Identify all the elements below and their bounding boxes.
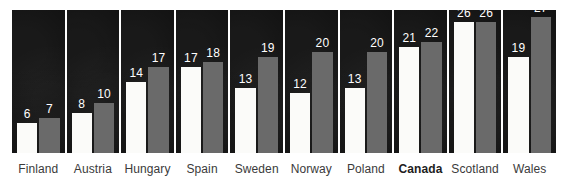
bar-series-a-poland[interactable]: 13 xyxy=(345,88,365,153)
category-label-sweden: Sweden xyxy=(230,158,283,180)
bar-value-label: 8 xyxy=(72,98,92,113)
bar-slot: 22 xyxy=(421,10,441,153)
bar-value-label: 26 xyxy=(476,7,496,22)
bar-series-b-spain[interactable]: 18 xyxy=(203,62,223,153)
bar-slot: 20 xyxy=(312,10,332,153)
bar-slot: 8 xyxy=(72,10,92,153)
country-panel-norway: 1220 xyxy=(285,10,338,153)
bar-slot: 14 xyxy=(126,10,146,153)
bar-value-label: 13 xyxy=(345,73,365,88)
bar-value-label: 14 xyxy=(126,67,146,82)
bar-series-a-hungary[interactable]: 14 xyxy=(126,82,146,153)
bar-slot: 13 xyxy=(235,10,255,153)
bar-group: 1417 xyxy=(121,10,174,153)
bar-slot: 7 xyxy=(39,10,59,153)
bar-value-label: 10 xyxy=(94,88,114,103)
bar-value-label: 21 xyxy=(399,32,419,47)
bar-group: 1220 xyxy=(285,10,338,153)
bar-series-b-finland[interactable]: 7 xyxy=(39,118,59,153)
bar-value-label: 17 xyxy=(181,52,201,67)
bar-slot: 27 xyxy=(531,10,551,153)
category-label-finland: Finland xyxy=(12,158,65,180)
bar-slot: 19 xyxy=(258,10,278,153)
country-panel-hungary: 1417 xyxy=(121,10,174,153)
bar-series-a-sweden[interactable]: 13 xyxy=(235,88,255,153)
bar-value-label: 6 xyxy=(17,108,37,123)
bar-value-label: 18 xyxy=(203,47,223,62)
category-label-canada: Canada xyxy=(394,158,447,180)
category-label-row: FinlandAustriaHungarySpainSwedenNorwayPo… xyxy=(12,158,556,180)
bar-slot: 18 xyxy=(203,10,223,153)
category-label-spain: Spain xyxy=(176,158,229,180)
category-label-hungary: Hungary xyxy=(121,158,174,180)
bar-series-b-poland[interactable]: 20 xyxy=(367,52,387,153)
bar-series-b-hungary[interactable]: 17 xyxy=(148,67,168,153)
country-panel-sweden: 1319 xyxy=(230,10,283,153)
category-label-scotland: Scotland xyxy=(449,158,502,180)
bar-group: 2122 xyxy=(394,10,447,153)
country-panel-scotland: 2626 xyxy=(449,10,502,153)
panel-strip: 6781014171718131912201320212226261927 xyxy=(12,10,556,153)
bar-value-label: 17 xyxy=(148,52,168,67)
bar-value-label: 20 xyxy=(312,37,332,52)
bar-series-b-austria[interactable]: 10 xyxy=(94,103,114,153)
bar-series-a-finland[interactable]: 6 xyxy=(17,123,37,153)
bar-slot: 12 xyxy=(290,10,310,153)
bar-slot: 20 xyxy=(367,10,387,153)
country-panel-finland: 67 xyxy=(12,10,65,153)
bar-value-label: 7 xyxy=(39,103,59,118)
bar-value-label: 20 xyxy=(367,37,387,52)
bar-value-label: 19 xyxy=(508,42,528,57)
country-panel-spain: 1718 xyxy=(176,10,229,153)
bar-series-b-scotland[interactable]: 26 xyxy=(476,22,496,153)
category-label-norway: Norway xyxy=(285,158,338,180)
bar-series-a-austria[interactable]: 8 xyxy=(72,113,92,153)
bar-value-label: 13 xyxy=(235,73,255,88)
bar-value-label: 12 xyxy=(290,78,310,93)
bar-series-a-wales[interactable]: 19 xyxy=(508,57,528,153)
bar-group: 810 xyxy=(67,10,120,153)
bar-value-label: 26 xyxy=(454,7,474,22)
bar-group: 1320 xyxy=(340,10,393,153)
bar-series-b-sweden[interactable]: 19 xyxy=(258,57,278,153)
bar-group: 1319 xyxy=(230,10,283,153)
bar-series-a-scotland[interactable]: 26 xyxy=(454,22,474,153)
bar-slot: 19 xyxy=(508,10,528,153)
bar-series-a-spain[interactable]: 17 xyxy=(181,67,201,153)
bar-slot: 17 xyxy=(181,10,201,153)
bar-slot: 26 xyxy=(454,10,474,153)
bar-series-a-canada[interactable]: 21 xyxy=(399,47,419,153)
bar-series-b-wales[interactable]: 27 xyxy=(531,17,551,153)
bar-slot: 13 xyxy=(345,10,365,153)
bar-group: 2626 xyxy=(449,10,502,153)
bar-value-label: 22 xyxy=(421,27,441,42)
bar-slot: 26 xyxy=(476,10,496,153)
country-panel-canada: 2122 xyxy=(394,10,447,153)
country-panel-wales: 1927 xyxy=(503,10,556,153)
bar-series-a-norway[interactable]: 12 xyxy=(290,93,310,153)
bar-value-label: 27 xyxy=(531,2,551,17)
country-panel-poland: 1320 xyxy=(340,10,393,153)
category-label-wales: Wales xyxy=(503,158,556,180)
bar-group: 1718 xyxy=(176,10,229,153)
bar-group: 67 xyxy=(12,10,65,153)
bar-slot: 21 xyxy=(399,10,419,153)
bar-value-label: 19 xyxy=(258,42,278,57)
country-panel-austria: 810 xyxy=(67,10,120,153)
bar-slot: 10 xyxy=(94,10,114,153)
bar-group: 1927 xyxy=(503,10,556,153)
bar-slot: 6 xyxy=(17,10,37,153)
category-label-austria: Austria xyxy=(67,158,120,180)
bar-series-b-norway[interactable]: 20 xyxy=(312,52,332,153)
bar-slot: 17 xyxy=(148,10,168,153)
bar-chart-panels: 6781014171718131912201320212226261927 Fi… xyxy=(0,0,567,186)
category-label-poland: Poland xyxy=(340,158,393,180)
bar-series-b-canada[interactable]: 22 xyxy=(421,42,441,153)
